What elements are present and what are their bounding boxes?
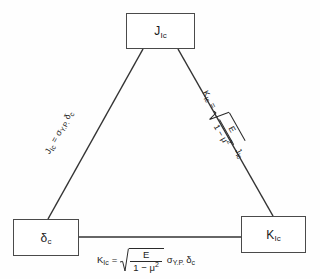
radicand-fraction: E 1 − μ2	[129, 248, 164, 272]
node-k-ic[interactable]: KIc	[241, 216, 306, 253]
square-root-group: E 1 − μ2	[120, 248, 164, 272]
node-j-ic-label: JIc	[154, 25, 166, 37]
denominator-exponent: 2	[155, 261, 159, 268]
fraction-denominator: 1 − μ2	[130, 261, 162, 273]
formula-lhs-subscript: Ic	[203, 95, 212, 103]
formula-sigma-subscript: Y.P.	[173, 259, 184, 266]
edge-label-bottom: KIc = E 1 − μ2 σY.P. δc	[97, 248, 195, 272]
denominator-exponent: 2	[226, 138, 234, 145]
fraction-numerator: E	[140, 250, 152, 261]
formula-delta-subscript: c	[191, 259, 195, 266]
formula-k-ic-from-delta-c: KIc = E 1 − μ2 σY.P. δc	[97, 248, 195, 272]
radical-sign-icon	[120, 248, 129, 272]
fraction: E 1 − μ2	[130, 250, 162, 272]
relationship-diagram: JIc δc KIc JIc = σY.P. δc KIc = E	[0, 0, 320, 279]
node-k-ic-label: KIc	[266, 229, 280, 241]
node-delta-c[interactable]: δc	[13, 219, 79, 256]
node-j-ic[interactable]: JIc	[126, 13, 195, 49]
formula-equals-sign: =	[50, 136, 60, 144]
node-delta-c-label: δc	[41, 232, 52, 244]
formula-equals-sign: =	[112, 255, 118, 265]
formula-lhs-subscript: Ic	[103, 259, 108, 266]
